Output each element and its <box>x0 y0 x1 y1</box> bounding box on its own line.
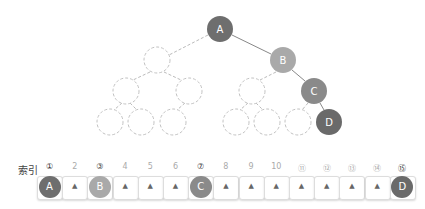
array-index: 8 <box>213 162 238 171</box>
empty-node <box>223 109 249 135</box>
empty-node <box>239 78 265 104</box>
empty-node <box>160 109 186 135</box>
empty-node <box>176 78 202 104</box>
empty-node <box>128 109 154 135</box>
empty-node <box>254 109 280 135</box>
empty-marker-icon: ▲ <box>365 182 390 190</box>
tree-node-a-label: A <box>217 24 224 35</box>
array-index: ⑫ <box>314 162 339 173</box>
array-index: 2 <box>62 162 87 171</box>
binary-tree-diagram: A B C D <box>0 0 425 160</box>
empty-marker-icon: ▲ <box>264 182 289 190</box>
array-index: ⑮ <box>390 162 415 173</box>
empty-node <box>113 78 139 104</box>
array-value-node: C <box>190 176 212 198</box>
empty-node <box>144 47 170 73</box>
empty-marker-icon: ▲ <box>62 182 87 190</box>
empty-marker-icon: ▲ <box>213 182 238 190</box>
empty-marker-icon: ▲ <box>163 182 188 190</box>
empty-marker-icon: ▲ <box>339 182 364 190</box>
array-value-node: A <box>39 176 61 198</box>
tree-node-b-label: B <box>280 55 287 66</box>
empty-marker-icon: ▲ <box>138 182 163 190</box>
array-index: 9 <box>239 162 264 171</box>
array-index: ⑦ <box>188 162 213 171</box>
array-index: ③ <box>87 162 112 171</box>
array-index: 4 <box>113 162 138 171</box>
empty-marker-icon: ▲ <box>239 182 264 190</box>
empty-marker-icon: ▲ <box>314 182 339 190</box>
array-index: 10 <box>264 162 289 171</box>
array-value-node: B <box>89 176 111 198</box>
array-index: ① <box>37 162 62 171</box>
array-index: ⑭ <box>365 162 390 173</box>
array-index: ⑬ <box>339 162 364 173</box>
empty-node <box>285 109 311 135</box>
empty-node <box>97 109 123 135</box>
index-label: 索引 <box>18 162 38 177</box>
array-index: ⑪ <box>289 162 314 173</box>
empty-marker-icon: ▲ <box>113 182 138 190</box>
tree-node-c-label: C <box>311 86 318 97</box>
tree-node-d-label: D <box>325 117 333 128</box>
array-index: 5 <box>138 162 163 171</box>
array-index: 6 <box>163 162 188 171</box>
empty-marker-icon: ▲ <box>289 182 314 190</box>
